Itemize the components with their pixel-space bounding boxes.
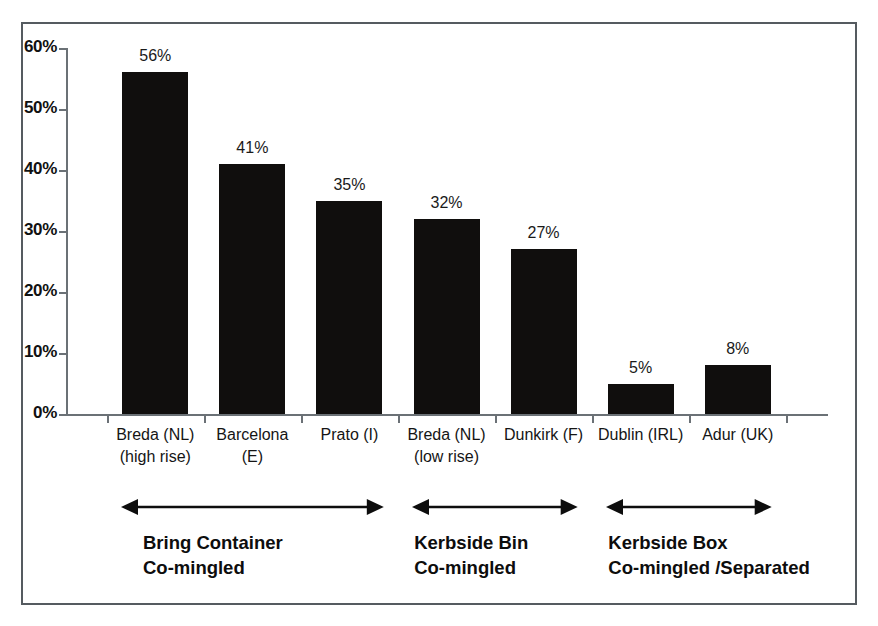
y-tick-mark (59, 231, 68, 233)
y-tick-label: 60% (24, 37, 57, 57)
category-label-line2: (low rise) (371, 446, 522, 468)
bar (316, 201, 382, 415)
group-caption: Kerbside BinCo-mingled (414, 530, 528, 580)
bar-value-label: 32% (398, 194, 495, 212)
bar (511, 249, 577, 414)
y-tick-mark (59, 414, 68, 416)
x-tick-mark (689, 414, 691, 423)
chart-frame: 0%10%20%30%40%50%60% 56%41%35%32%27%5%8%… (21, 22, 857, 605)
y-tick-label: 20% (24, 281, 57, 301)
x-tick-mark (786, 414, 788, 423)
group-caption-line1: Bring Container (143, 532, 283, 553)
group-caption: Bring ContainerCo-mingled (143, 530, 283, 580)
group-span-arrow (121, 496, 384, 518)
bar (219, 164, 285, 414)
x-axis-line (66, 414, 828, 416)
x-tick-mark (301, 414, 303, 423)
x-tick-mark (398, 414, 400, 423)
category-label: Adur (UK) (662, 424, 813, 446)
y-tick-mark (59, 292, 68, 294)
y-tick-label: 30% (24, 220, 57, 240)
y-tick-mark (59, 170, 68, 172)
plot-area: 0%10%20%30%40%50%60% 56%41%35%32%27%5%8% (66, 48, 828, 416)
y-tick-mark (59, 48, 68, 50)
y-tick-label: 10% (24, 342, 57, 362)
group-caption-line2: Co-mingled (143, 555, 283, 580)
group-caption: Kerbside BoxCo-mingled /Separated (608, 530, 809, 580)
x-tick-mark (495, 414, 497, 423)
y-tick-mark (59, 109, 68, 111)
bar-value-label: 56% (107, 47, 204, 65)
category-label-line1: Prato (I) (321, 426, 379, 443)
x-tick-mark (107, 414, 109, 423)
bar (122, 72, 188, 414)
group-span-arrow (606, 496, 772, 518)
group-caption-line1: Kerbside Box (608, 532, 727, 553)
x-tick-mark (204, 414, 206, 423)
y-tick-label: 40% (24, 159, 57, 179)
x-tick-mark (592, 414, 594, 423)
category-label-line2: (E) (177, 446, 328, 468)
group-annotations: Bring ContainerCo-mingledKerbside BinCo-… (66, 486, 828, 596)
bar-value-label: 41% (204, 139, 301, 157)
bar (414, 219, 480, 414)
group-caption-line1: Kerbside Bin (414, 532, 528, 553)
group-caption-line2: Co-mingled (414, 555, 528, 580)
group-caption-line2: Co-mingled /Separated (608, 555, 809, 580)
bar-value-label: 8% (689, 340, 786, 358)
category-axis-labels: Breda (NL)(high rise)Barcelona(E)Prato (… (66, 424, 828, 480)
y-tick-label: 50% (24, 98, 57, 118)
bar-value-label: 5% (592, 359, 689, 377)
y-tick-mark (59, 353, 68, 355)
bar-value-label: 27% (495, 224, 592, 242)
bar-value-label: 35% (301, 176, 398, 194)
group-span-arrow (412, 496, 578, 518)
bar (608, 384, 674, 415)
category-label-line1: Adur (UK) (702, 426, 773, 443)
y-tick-label: 0% (33, 403, 57, 423)
bar (705, 365, 771, 414)
